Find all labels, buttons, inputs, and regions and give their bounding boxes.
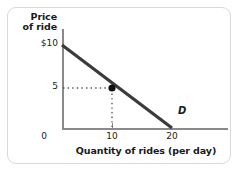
demand-curve-label: D bbox=[178, 106, 186, 117]
plot-area: Price of ride $10 5 0 10 20 D Quantity o… bbox=[0, 0, 240, 172]
x-tick-label-0: 0 bbox=[36, 132, 52, 142]
y-axis-title-line2: of ride bbox=[23, 21, 57, 32]
y-axis-title: Price of ride bbox=[0, 12, 57, 33]
x-tick-label-20: 20 bbox=[160, 132, 184, 142]
equilibrium-point-marker bbox=[108, 84, 115, 91]
x-axis-title: Quantity of rides (per day) bbox=[62, 146, 230, 156]
y-tick-label-10: $10 bbox=[20, 39, 58, 49]
x-tick-label-10: 10 bbox=[100, 132, 124, 142]
demand-curve-line bbox=[62, 45, 172, 128]
y-tick-label-5: 5 bbox=[20, 82, 58, 92]
figure-container: Price of ride $10 5 0 10 20 D Quantity o… bbox=[0, 0, 240, 172]
